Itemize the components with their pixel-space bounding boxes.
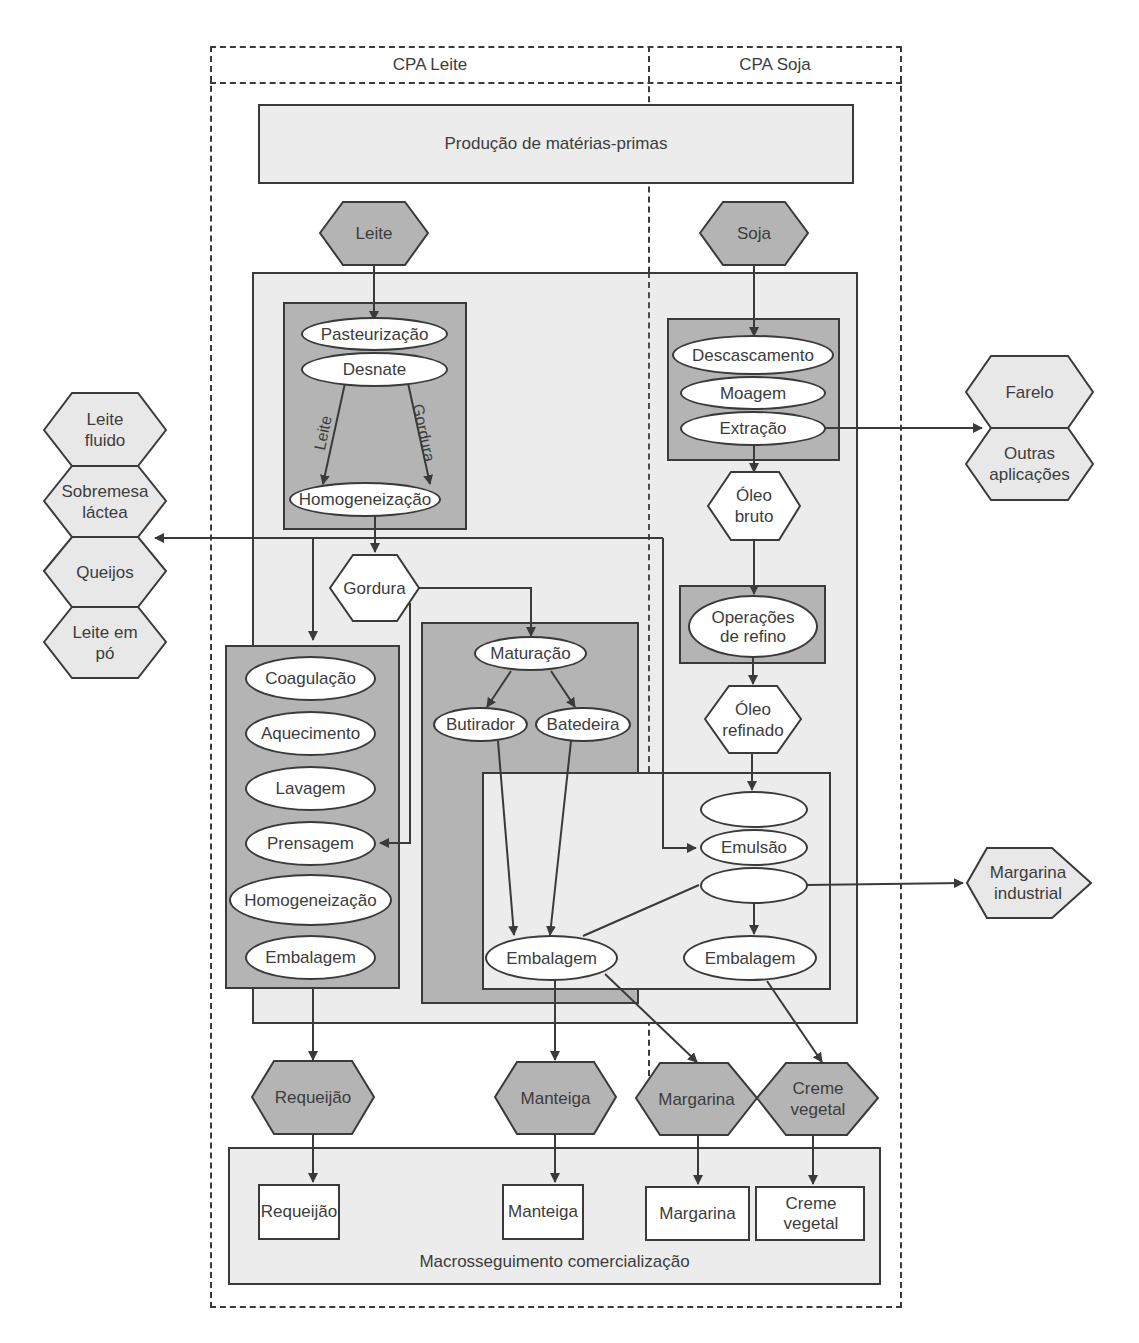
- sobremesa-lactea-label: Sobremesa láctea: [52, 466, 158, 537]
- step-homogeneizacao-cheese: Homogeneização: [229, 874, 392, 926]
- fat-label: Gordura: [330, 555, 419, 621]
- leite-em-po-label: Leite em pó: [64, 607, 146, 678]
- raw-milk-label: Leite: [320, 202, 428, 265]
- step-descascamento: Descascamento: [672, 335, 834, 375]
- leite-fluido-label: Leite fluido: [64, 393, 146, 466]
- step-maturacao: Maturação: [474, 636, 587, 671]
- step-homogeneizacao-milk: Homogeneização: [289, 482, 441, 517]
- step-aquecimento: Aquecimento: [245, 711, 376, 756]
- step-emulsion-pre: [700, 791, 808, 828]
- step-embalagem-left: Embalagem: [485, 935, 618, 981]
- queijos-label: Queijos: [64, 537, 146, 607]
- crude-oil-label: Óleo bruto: [722, 472, 786, 540]
- step-operacoes-refino: Operações de refino: [688, 595, 818, 658]
- step-prensagem: Prensagem: [245, 821, 376, 866]
- step-batedeira: Batedeira: [535, 707, 631, 742]
- raw-soy-label: Soja: [700, 202, 808, 265]
- margarina-product-label: Margarina: [636, 1063, 757, 1135]
- step-embalagem-right: Embalagem: [683, 935, 817, 981]
- margarina-industrial-label: Margarina industrial: [983, 848, 1073, 918]
- refined-oil-label: Óleo refinado: [715, 686, 791, 753]
- step-coagulacao: Coagulação: [245, 656, 376, 701]
- step-extracao: Extração: [680, 411, 826, 446]
- manteiga-product-label: Manteiga: [495, 1062, 616, 1134]
- diagram-connectors: [0, 0, 1139, 1343]
- step-emulsion-post: [700, 867, 808, 904]
- step-pasteurizacao: Pasteurização: [301, 317, 448, 351]
- requeijao-product-label: Requeijão: [252, 1061, 374, 1134]
- creme-vegetal-product-label: Creme vegetal: [772, 1063, 864, 1135]
- step-lavagem: Lavagem: [245, 766, 376, 811]
- step-embalagem-cheese: Embalagem: [245, 935, 376, 980]
- step-butirador: Butirador: [433, 707, 528, 742]
- step-moagem: Moagem: [680, 376, 826, 410]
- farelo-label: Farelo: [966, 356, 1093, 428]
- step-emulsao: Emulsão: [700, 829, 808, 866]
- outras-aplicacoes-label: Outras aplicações: [976, 428, 1083, 500]
- step-desnate: Desnate: [301, 352, 448, 387]
